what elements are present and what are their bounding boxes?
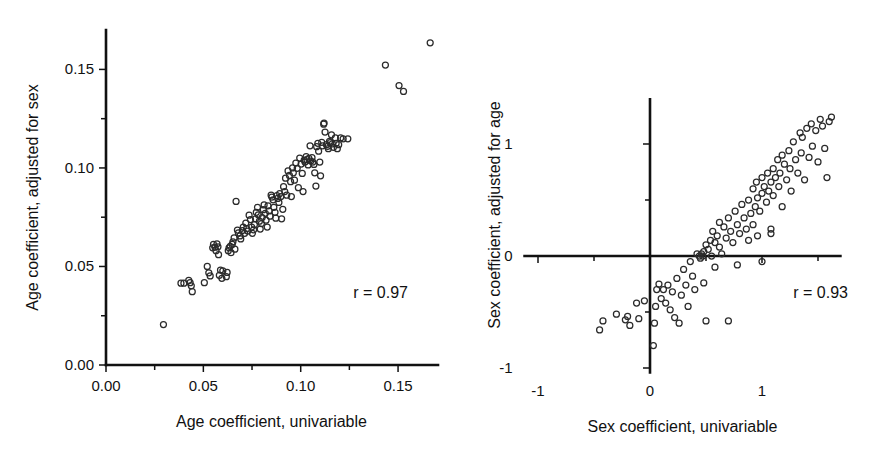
data-point xyxy=(741,215,747,221)
data-point xyxy=(676,320,682,326)
data-point xyxy=(663,300,669,306)
data-point xyxy=(687,259,693,265)
data-point xyxy=(817,116,823,122)
correlation-annotation: r = 0.93 xyxy=(793,284,848,301)
data-point xyxy=(692,287,698,293)
data-point xyxy=(656,281,662,287)
data-point xyxy=(822,145,828,151)
data-point xyxy=(759,190,765,196)
data-point xyxy=(701,280,707,286)
data-point xyxy=(672,315,678,321)
data-point xyxy=(653,303,659,309)
data-point xyxy=(770,166,776,172)
data-point xyxy=(755,233,761,239)
x-tick-label: 0.15 xyxy=(383,377,412,394)
data-point xyxy=(669,289,675,295)
data-point xyxy=(714,233,720,239)
data-point xyxy=(322,129,328,135)
scatter-points-group xyxy=(597,114,835,348)
data-point xyxy=(201,280,207,286)
data-point xyxy=(725,318,731,324)
data-point xyxy=(819,123,825,129)
data-point xyxy=(798,150,804,156)
scatter-plot-sex-svg: -101-101Sex coefficient, univariableSex … xyxy=(445,0,895,453)
x-tick-label: 0.00 xyxy=(91,377,120,394)
data-point xyxy=(651,320,657,326)
data-point xyxy=(674,275,680,281)
data-point xyxy=(779,152,785,158)
data-point xyxy=(788,188,794,194)
data-point xyxy=(317,159,323,165)
data-point xyxy=(750,222,756,228)
data-point xyxy=(743,226,749,232)
data-point xyxy=(746,197,752,203)
x-tick-label: 0.10 xyxy=(286,377,315,394)
data-point xyxy=(787,166,793,172)
data-point xyxy=(730,240,736,246)
data-point xyxy=(732,208,738,214)
data-point xyxy=(401,88,407,94)
y-axis-title: Sex coefficient, adjusted for age xyxy=(486,101,503,329)
data-point xyxy=(781,161,787,167)
data-point xyxy=(739,201,745,207)
data-point xyxy=(627,322,633,328)
data-point xyxy=(189,289,195,295)
data-point xyxy=(233,198,239,204)
x-axis-title: Sex coefficient, univariable xyxy=(587,418,777,435)
data-point xyxy=(613,311,619,317)
data-point xyxy=(813,128,819,134)
y-tick-label: 0.15 xyxy=(65,60,94,77)
data-point xyxy=(750,186,756,192)
data-point xyxy=(665,282,671,288)
data-point xyxy=(280,206,286,212)
data-point xyxy=(728,228,734,234)
data-point xyxy=(793,157,799,163)
data-point xyxy=(824,175,830,181)
data-point xyxy=(716,244,722,250)
scatter-panel-age: 0.000.050.100.150.000.050.100.15Age coef… xyxy=(0,0,450,453)
data-point xyxy=(802,177,808,183)
y-tick-label: 1 xyxy=(504,135,512,152)
data-point xyxy=(279,216,285,222)
data-point xyxy=(300,189,306,195)
x-tick-label: -1 xyxy=(531,382,544,399)
data-point xyxy=(667,307,673,313)
data-point xyxy=(795,170,801,176)
data-point xyxy=(786,148,792,154)
data-point xyxy=(634,300,640,306)
y-tick-label: 0.00 xyxy=(65,356,94,373)
data-point xyxy=(809,143,815,149)
x-axis-title: Age coefficient, univariable xyxy=(176,413,367,430)
x-tick-label: 1 xyxy=(758,382,766,399)
data-point xyxy=(160,322,166,328)
data-point xyxy=(396,83,402,89)
data-point xyxy=(815,159,821,165)
data-point xyxy=(690,273,696,279)
scatter-plot-age-svg: 0.000.050.100.150.000.050.100.15Age coef… xyxy=(0,0,450,453)
data-point xyxy=(273,215,279,221)
data-point xyxy=(641,298,647,304)
y-tick-label: 0.10 xyxy=(65,159,94,176)
data-point xyxy=(723,235,729,241)
data-point xyxy=(776,184,782,190)
data-point xyxy=(232,246,238,252)
correlation-annotation: r = 0.97 xyxy=(353,284,408,301)
data-point xyxy=(313,183,319,189)
data-point xyxy=(636,316,642,322)
data-point xyxy=(759,175,765,181)
y-tick-label: 0 xyxy=(504,247,512,264)
data-point xyxy=(382,62,388,68)
data-point xyxy=(683,282,689,288)
data-point xyxy=(276,199,282,205)
data-point xyxy=(757,208,763,214)
data-point xyxy=(204,263,210,269)
data-point xyxy=(427,40,433,46)
data-point xyxy=(806,154,812,160)
data-point xyxy=(790,139,796,145)
data-point xyxy=(808,121,814,127)
data-point xyxy=(264,224,270,230)
data-point xyxy=(600,318,606,324)
figure-container: 0.000.050.100.150.000.050.100.15Age coef… xyxy=(0,0,895,453)
data-point xyxy=(685,303,691,309)
data-point xyxy=(784,177,790,183)
